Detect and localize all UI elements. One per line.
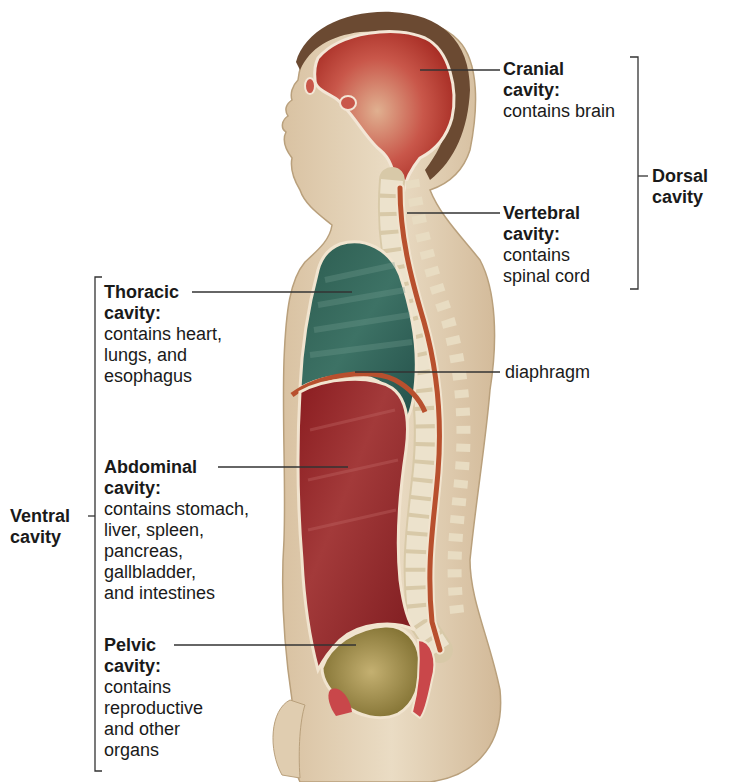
cranial-cavity-label: Cranial cavity: contains brain [503,59,615,122]
ventral-cavity-label: Ventral cavity [10,506,70,548]
pelvic-cavity-label: Pelvic cavity: contains reproductive and… [104,635,203,761]
dorsal-bracket [630,57,648,289]
abdominal-cavity-label: Abdominal cavity: contains stomach, live… [104,457,249,604]
thoracic-cavity-label: Thoracic cavity: contains heart, lungs, … [104,282,222,387]
vertebral-cavity-label: Vertebral cavity: contains spinal cord [503,203,590,287]
body-cavities-diagram: Cranial cavity: contains brain Vertebral… [0,0,739,782]
ventral-bracket [88,277,102,771]
dorsal-cavity-label: Dorsal cavity [652,166,708,208]
diaphragm-label: diaphragm [505,362,590,383]
